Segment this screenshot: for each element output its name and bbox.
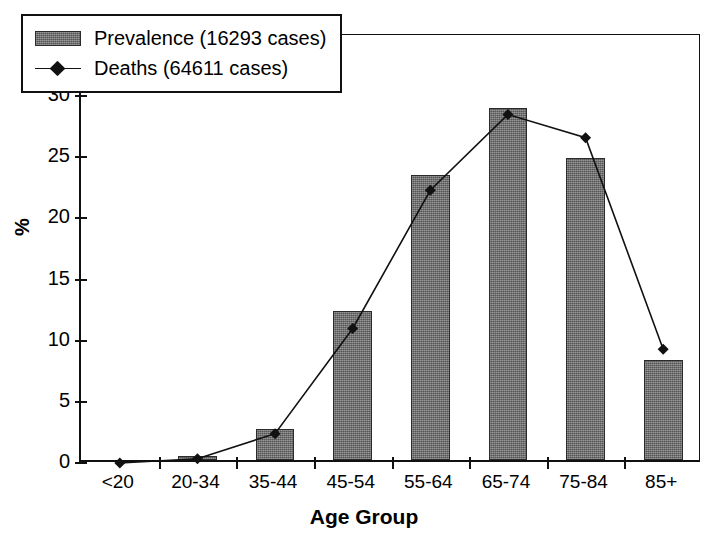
deaths-diamond-marker [580, 132, 591, 143]
y-tick-label: 5 [34, 390, 70, 410]
y-axis-title: % [11, 218, 34, 236]
deaths-diamond-marker [270, 428, 281, 439]
x-tick [159, 457, 161, 469]
y-tick-label: 25 [34, 145, 70, 165]
chart-legend: Prevalence (16293 cases) Deaths (64611 c… [21, 14, 342, 93]
y-tick-label: 10 [34, 329, 70, 349]
legend-diamond-marker-icon [50, 60, 66, 76]
line-series-deaths [81, 35, 702, 463]
x-tick-label: 85+ [611, 472, 711, 492]
legend-item-deaths: Deaths (64611 cases) [35, 53, 326, 83]
bar-swatch-icon [35, 31, 81, 46]
x-axis-title: Age Group [0, 505, 728, 529]
line-marker-swatch-icon [35, 61, 81, 76]
deaths-diamond-marker [347, 323, 358, 334]
x-tick [469, 457, 471, 469]
x-tick [236, 457, 238, 469]
x-tick [624, 457, 626, 469]
y-tick-label: 0 [34, 451, 70, 471]
y-tick-label: 20 [34, 206, 70, 226]
figure-canvas: % 05101520253035 <2020-3435-4445-5455-64… [0, 0, 728, 549]
deaths-polyline [120, 114, 663, 463]
legend-label-prevalence: Prevalence (16293 cases) [94, 28, 326, 48]
x-tick [392, 457, 394, 469]
x-tick [314, 457, 316, 469]
deaths-diamond-marker [658, 344, 669, 355]
deaths-diamond-marker [114, 458, 125, 469]
y-tick-label: 15 [34, 268, 70, 288]
deaths-markers [114, 109, 668, 469]
x-tick [547, 457, 549, 469]
plot-area [79, 34, 700, 462]
legend-item-prevalence: Prevalence (16293 cases) [35, 23, 326, 53]
deaths-diamond-marker [192, 453, 203, 464]
legend-label-deaths: Deaths (64611 cases) [94, 58, 288, 78]
